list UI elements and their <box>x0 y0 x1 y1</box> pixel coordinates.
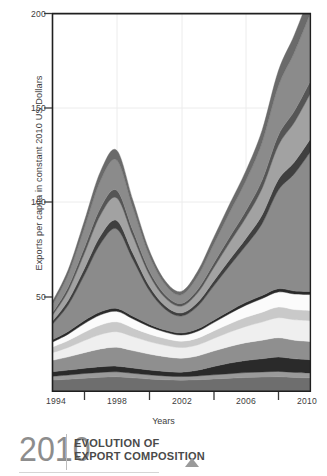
x-tick-2002: 2002 <box>162 396 202 406</box>
footer-underline <box>19 472 159 473</box>
page-root: 50 100 150 200 Exports per capita in con… <box>0 0 327 476</box>
plot-area <box>0 0 327 412</box>
footer-caption: 2010 EVOLUTION OF EXPORT COMPOSITION <box>0 434 327 476</box>
x-tick-1998: 1998 <box>97 396 137 406</box>
x-axis-label: Years <box>0 416 327 426</box>
triangle-marker-icon <box>185 458 199 467</box>
footer-divider <box>66 434 67 470</box>
footer-title-line-1: EVOLUTION OF <box>74 436 205 449</box>
y-tick-marks <box>44 14 52 298</box>
x-tick-2010: 2010 <box>287 396 327 406</box>
x-tick-1994: 1994 <box>36 396 76 406</box>
stacked-area-chart: 50 100 150 200 Exports per capita in con… <box>0 0 327 412</box>
x-tick-2006: 2006 <box>226 396 266 406</box>
